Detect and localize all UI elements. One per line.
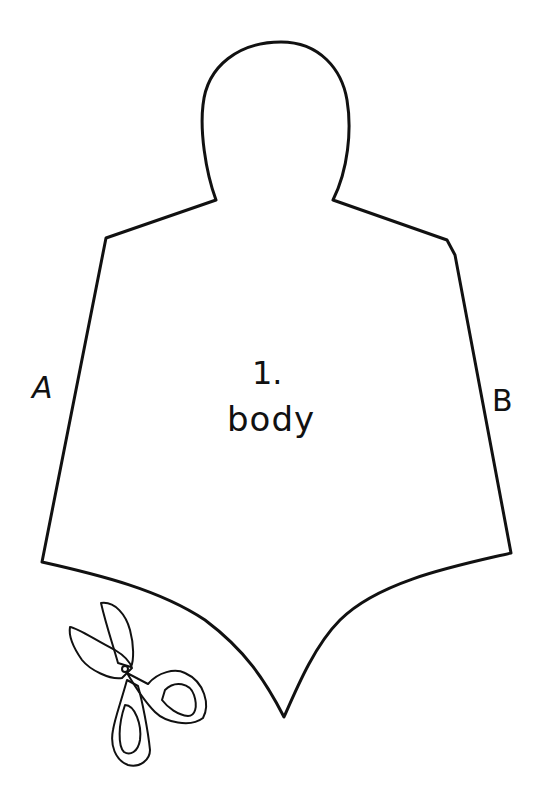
edge-label-right: B [492,386,513,416]
edge-label-left: A [32,373,53,403]
scissors-icon [70,603,206,766]
pattern-piece-name: body [227,402,315,436]
pattern-piece-number: 1. [252,357,283,389]
